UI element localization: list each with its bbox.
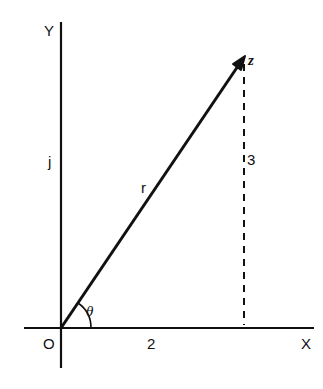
argand-diagram: Y j r z 3 θ O 2 X [0,0,323,389]
real-part-label: 2 [147,335,155,352]
angle-theta-label: θ [86,303,94,319]
imag-part-label: 3 [247,151,255,168]
imag-unit-label: j [47,153,51,170]
point-z-label: z [247,52,254,68]
vector-r [61,66,238,328]
origin-label: O [43,335,55,352]
x-axis-label: X [301,335,311,352]
y-axis-label: Y [44,22,54,39]
vector-r-label: r [141,179,146,196]
